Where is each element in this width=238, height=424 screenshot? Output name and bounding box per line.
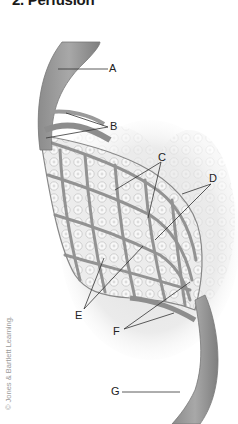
label-b: B bbox=[110, 121, 117, 132]
label-d: D bbox=[209, 173, 217, 184]
label-f: F bbox=[113, 326, 120, 337]
label-e: E bbox=[75, 310, 82, 321]
label-g: G bbox=[111, 386, 120, 397]
label-c: C bbox=[158, 152, 166, 163]
label-a: A bbox=[109, 63, 116, 74]
copyright-notice: © Jones & Bartlett Learning. bbox=[4, 316, 13, 410]
capillary-bed-illustration bbox=[0, 0, 238, 424]
